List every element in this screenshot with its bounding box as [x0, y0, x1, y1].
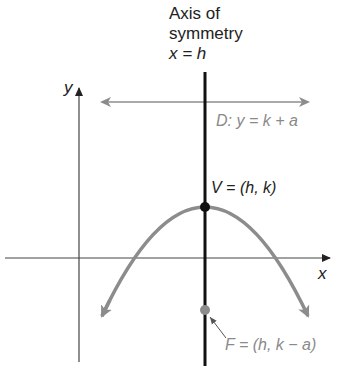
vertex-label: V = (h, k)	[211, 179, 276, 197]
focus-pointer-arrow	[210, 317, 226, 338]
title-line-1: Axis of	[169, 4, 243, 24]
x-axis-label: x	[318, 264, 327, 284]
title-line-3: x = h	[169, 44, 243, 64]
axis-of-symmetry-label: Axis of symmetry x = h	[169, 4, 243, 64]
parabola-curve-left-end	[102, 300, 110, 316]
vertex-point	[200, 202, 210, 212]
y-axis-label: y	[64, 78, 73, 98]
directrix-label: D: y = k + a	[216, 112, 298, 130]
focus-point	[200, 305, 210, 315]
title-line-2: symmetry	[169, 24, 243, 44]
focus-label: F = (h, k − a)	[225, 336, 316, 354]
